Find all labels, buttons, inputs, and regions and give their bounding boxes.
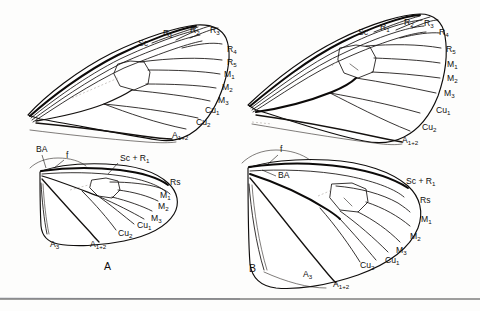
figure-canvas: ScR1R2R3R4R5M1M2M3Cu1Cu2A1+2BAfSc + R1Rs… — [0, 0, 480, 311]
vein-label-a-forewing-m2: M2 — [222, 82, 233, 93]
vein-label-subscript: 2 — [417, 235, 421, 242]
vein-label-subscript: 3 — [451, 92, 455, 99]
vein-label-subscript: 3 — [309, 273, 313, 280]
vein-label-subscript: 2 — [165, 205, 169, 212]
vein-label-a-forewing-r5: R5 — [227, 57, 237, 68]
vein-label-base: Sc + R — [120, 153, 146, 163]
vein-label-subscript: 1 — [216, 109, 220, 116]
wing-outline — [40, 164, 177, 246]
vein-label-base: M — [447, 73, 454, 83]
vein-label-base: Cu — [137, 220, 148, 230]
vein-label-subscript: 3 — [225, 99, 229, 106]
vein-label-base: Sc — [358, 27, 369, 37]
vein-label-subscript: 2 — [433, 126, 437, 133]
vein-label-base: Cu — [118, 228, 129, 238]
vein-label-b-hindwing-m2: M2 — [410, 231, 421, 242]
wing-venation-figure: ScR1R2R3R4R5M1M2M3Cu1Cu2A1+2BAfSc + R1Rs… — [0, 0, 480, 311]
ba-leader — [42, 155, 46, 168]
vein-label-a-forewing-m3: M3 — [218, 95, 229, 106]
vein-label-subscript: 1 — [432, 180, 436, 187]
vein-label-subscript: 1 — [167, 194, 171, 201]
vein-label-base: M — [158, 201, 165, 211]
vein-label-a-hindwing-ba: BA — [36, 144, 48, 154]
vein-label-b-hindwing-ba: BA — [278, 170, 290, 180]
vein-label-a-forewing-cu2: Cu2 — [196, 117, 211, 128]
vein-label-subscript: 1 — [231, 73, 235, 80]
vein-label-subscript: 3 — [216, 29, 220, 36]
vein-label-subscript: 1+2 — [178, 134, 189, 141]
vein-label-base: M — [160, 190, 167, 200]
vein-label-base: Cu — [196, 117, 207, 127]
vein-label-base: Sc — [138, 38, 149, 48]
vein-label-base: M — [410, 231, 417, 241]
vein-label-base: Cu — [385, 255, 396, 265]
vein-label-subscript: 2 — [129, 232, 133, 239]
vein-label-subscript: 1 — [386, 26, 390, 33]
vein-label-base: Cu — [360, 260, 371, 270]
vein-label-subscript: 1 — [396, 259, 400, 266]
vein-label-subscript: 5 — [233, 61, 237, 68]
vein-label-a-forewing-r4: R4 — [227, 44, 237, 55]
vein-label-base: Cu — [422, 122, 433, 132]
vein-label-subscript: 4 — [445, 31, 449, 38]
vein-label-base: M — [421, 214, 428, 224]
vein-label-b-forewing-m1: M1 — [447, 59, 458, 70]
vein-label-subscript: 2 — [196, 29, 200, 36]
vein-label-base: M — [396, 245, 403, 255]
vein-label-b-forewing-sc: Sc — [358, 27, 369, 37]
vein-label-base: M — [151, 213, 158, 223]
vein-label-subscript: 3 — [430, 22, 434, 29]
vein-label-base: BA — [36, 144, 48, 154]
vein-label-base: Cu — [436, 105, 447, 115]
vein-label-subscript: 5 — [452, 48, 456, 55]
wing-b-hindwing — [242, 150, 421, 288]
vein-label-subscript: 1 — [447, 109, 451, 116]
vein-label-subscript: 2 — [454, 77, 458, 84]
vein-label-a-hindwing-rs: Rs — [170, 177, 181, 187]
vein-label-b-hindwing-m1: M1 — [421, 214, 432, 225]
vein-label-a-forewing-m1: M1 — [224, 69, 235, 80]
wing-a-hindwing — [30, 155, 177, 246]
vein-label-a-hindwing-scr1: Sc + R1 — [120, 153, 150, 164]
vein-label-base: Rs — [170, 177, 181, 187]
vein-label-base: Cu — [205, 105, 216, 115]
vein-label-base: M — [447, 59, 454, 69]
vein-label-subscript: 1+2 — [339, 283, 350, 290]
vein-label-b-forewing-r5: R5 — [446, 44, 456, 55]
vein-label-subscript: 2 — [229, 86, 233, 93]
vein-label-subscript: 3 — [403, 249, 407, 256]
wing-outline — [248, 159, 421, 288]
vein-label-subscript: 2 — [371, 264, 375, 271]
vein-label-b-forewing-r4: R4 — [439, 27, 449, 38]
vein-label-b-hindwing-rs: Rs — [420, 195, 431, 205]
vein-label-a-forewing-sc: Sc — [138, 38, 149, 48]
vein-label-base: f — [280, 144, 283, 154]
vein-label-b-hindwing-f: f — [280, 144, 283, 154]
vein-label-a-forewing-r3: R3 — [210, 25, 220, 36]
wing-b-forewing — [248, 14, 446, 145]
vein-label-base: M — [444, 88, 451, 98]
vein-label-base: Rs — [420, 195, 431, 205]
vein-label-subscript: 1 — [146, 157, 150, 164]
vein-label-b-forewing-a12: A1+2 — [402, 135, 419, 146]
vein-label-b-forewing-m3: M3 — [444, 88, 455, 99]
vein-label-a-forewing-cu1: Cu1 — [205, 105, 220, 116]
vein-label-base: M — [224, 69, 231, 79]
vein-label-b-forewing-cu1: Cu1 — [436, 105, 451, 116]
vein-label-subscript: 1+2 — [408, 139, 419, 146]
panel-label-a: A — [104, 260, 111, 272]
vein-label-b-hindwing-scr1: Sc + R1 — [406, 176, 436, 187]
vein-label-subscript: 2 — [207, 121, 211, 128]
vein-label-b-forewing-cu2: Cu2 — [422, 122, 437, 133]
vein-label-base: M — [222, 82, 229, 92]
panel-label-b: B — [249, 262, 256, 274]
basal-fold-faint — [252, 122, 272, 124]
vein-label-base: BA — [278, 170, 290, 180]
vein-label-base: Sc + R — [406, 176, 432, 186]
vein-label-b-forewing-m2: M2 — [447, 73, 458, 84]
vein-label-subscript: 2 — [410, 21, 414, 28]
vein-label-subscript: 1 — [428, 218, 432, 225]
vein-label-subscript: 1 — [169, 32, 173, 39]
vein-label-subscript: 1 — [454, 63, 458, 70]
vein-label-subscript: 4 — [233, 48, 237, 55]
